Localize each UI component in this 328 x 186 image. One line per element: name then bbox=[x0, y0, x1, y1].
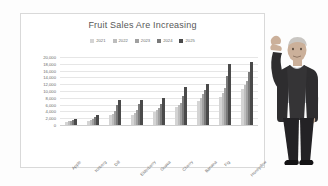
bar-group[interactable] bbox=[104, 57, 126, 125]
y-axis-tick-label: 18,000 bbox=[43, 61, 56, 66]
plot-area: 20,00018,00016,00014,00012,00010,0008,00… bbox=[60, 57, 258, 125]
person-cutout-image bbox=[252, 18, 328, 186]
legend-item-2025[interactable]: 2025 bbox=[179, 38, 194, 43]
y-axis-tick-label: 2,000 bbox=[46, 116, 56, 121]
bar-group[interactable] bbox=[192, 57, 214, 125]
bar[interactable] bbox=[184, 87, 186, 125]
y-axis-tick-label: 20,000 bbox=[43, 55, 56, 60]
legend-swatch-icon bbox=[179, 39, 183, 43]
x-axis-tick-label: Cherry bbox=[181, 159, 194, 172]
y-axis-tick-label: 12,000 bbox=[43, 82, 56, 87]
legend-label: 2024 bbox=[163, 38, 172, 43]
legend-swatch-icon bbox=[157, 39, 161, 43]
x-axis-tick-label: Elderberry bbox=[139, 159, 157, 177]
slide-canvas: Fruit Sales Are Increasing 2021202220232… bbox=[0, 0, 328, 186]
bar-group[interactable] bbox=[60, 57, 82, 125]
x-axis-tick-label: Apple bbox=[71, 159, 82, 170]
bar[interactable] bbox=[228, 64, 230, 125]
y-axis: 20,00018,00016,00014,00012,00010,0008,00… bbox=[21, 57, 58, 125]
legend-item-2021[interactable]: 2021 bbox=[90, 38, 105, 43]
legend-item-2023[interactable]: 2023 bbox=[135, 38, 150, 43]
bar-group[interactable] bbox=[214, 57, 236, 125]
x-axis-tick-label: Iceberg bbox=[94, 159, 108, 173]
bar[interactable] bbox=[96, 115, 98, 125]
x-axis-tick-label: Banana bbox=[204, 159, 218, 173]
bar-groups bbox=[60, 57, 258, 125]
y-axis-tick-label: 0 bbox=[54, 123, 56, 128]
bar[interactable] bbox=[162, 98, 164, 125]
bar[interactable] bbox=[140, 100, 142, 126]
y-axis-tick-label: 14,000 bbox=[43, 75, 56, 80]
bar-group[interactable] bbox=[126, 57, 148, 125]
chart-title: Fruit Sales Are Increasing bbox=[21, 20, 264, 30]
y-axis-tick-label: 8,000 bbox=[46, 95, 56, 100]
bar-group[interactable] bbox=[82, 57, 104, 125]
y-axis-tick-label: 6,000 bbox=[46, 102, 56, 107]
legend-label: 2025 bbox=[185, 38, 194, 43]
legend-label: 2023 bbox=[141, 38, 150, 43]
y-axis-tick-label: 4,000 bbox=[46, 109, 56, 114]
bar-group[interactable] bbox=[170, 57, 192, 125]
bar-group[interactable] bbox=[148, 57, 170, 125]
bar[interactable] bbox=[118, 100, 120, 125]
y-axis-tick-label: 16,000 bbox=[43, 68, 56, 73]
x-axis-tick-label: Guava bbox=[159, 159, 171, 171]
chart-container[interactable]: Fruit Sales Are Increasing 2021202220232… bbox=[20, 13, 265, 168]
bar[interactable] bbox=[206, 84, 208, 125]
x-axis: AppleIcebergDillElderberryGuavaCherryBan… bbox=[60, 125, 258, 163]
x-axis-tick-label: Dill bbox=[113, 159, 121, 167]
x-axis-tick-label: Fig bbox=[223, 159, 231, 167]
y-axis-tick-label: 10,000 bbox=[43, 89, 56, 94]
legend-label: 2021 bbox=[96, 38, 105, 43]
legend-swatch-icon bbox=[90, 39, 94, 43]
person-figure bbox=[270, 36, 318, 165]
legend-swatch-icon bbox=[113, 39, 117, 43]
legend-item-2022[interactable]: 2022 bbox=[113, 38, 128, 43]
chart-legend: 20212022202320242025 bbox=[21, 38, 264, 43]
legend-label: 2022 bbox=[119, 38, 128, 43]
legend-swatch-icon bbox=[135, 39, 139, 43]
legend-item-2024[interactable]: 2024 bbox=[157, 38, 172, 43]
